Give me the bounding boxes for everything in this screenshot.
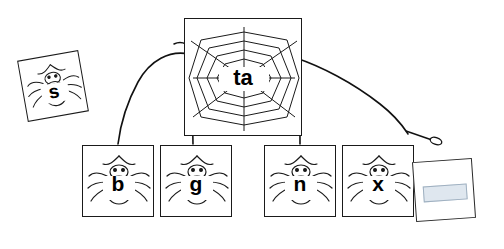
letter-card-b[interactable]: b (82, 145, 154, 217)
worksheet-canvas: ta s (0, 0, 504, 249)
sticky-note[interactable] (412, 158, 476, 222)
web-card[interactable]: ta (184, 18, 302, 136)
letter-card-g-label: g (161, 173, 231, 194)
sticky-note-band (423, 183, 468, 202)
letter-card-b-label: b (83, 173, 153, 194)
letter-card-n[interactable]: n (264, 145, 336, 217)
letter-card-x-label: x (343, 173, 413, 194)
web-center-label: ta (185, 67, 301, 89)
cursor-pointer-icon (406, 131, 443, 146)
letter-card-x[interactable]: x (342, 145, 414, 217)
letter-card-n-label: n (265, 173, 335, 194)
letter-card-g[interactable]: g (160, 145, 232, 217)
letter-card-s[interactable]: s (17, 50, 89, 122)
